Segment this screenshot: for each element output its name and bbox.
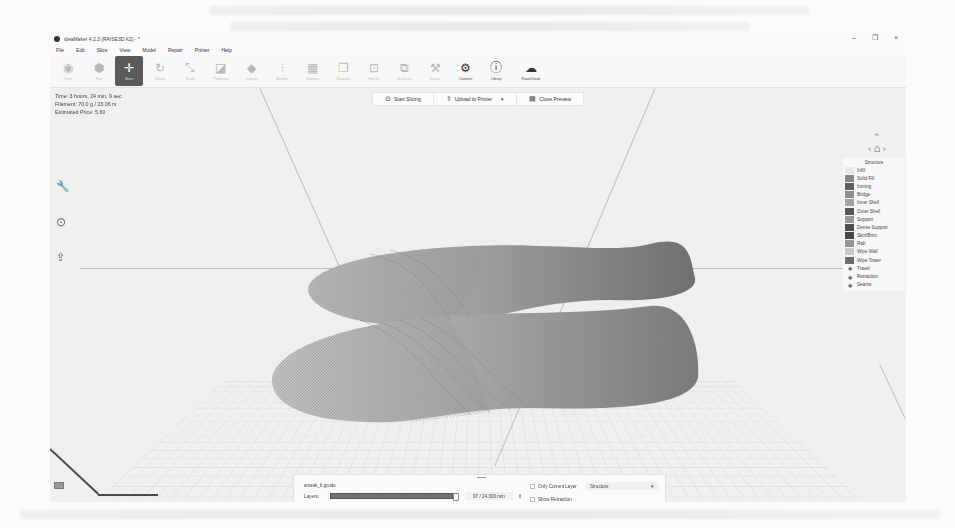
menu-repair[interactable]: Repair xyxy=(168,47,183,53)
layers-input[interactable]: 97 / 24.300 mm xyxy=(465,492,513,500)
repair-icon: ⚒ xyxy=(430,61,441,75)
view-mode-select[interactable]: Structure ▾ xyxy=(586,482,658,490)
tool-view[interactable]: ◉View xyxy=(54,56,82,86)
play-circle-icon[interactable]: ⊙ xyxy=(56,215,70,229)
home-view-icon[interactable]: ⌂ xyxy=(874,142,881,154)
print-time: Time: 3 hours, 24 min, 9 sec xyxy=(55,92,122,100)
tool-rotate[interactable]: ↻Rotate xyxy=(146,56,174,86)
3d-viewport[interactable]: Time: 3 hours, 24 min, 9 sec Filament: 7… xyxy=(50,88,906,502)
tool-shadows[interactable]: ❐Shadows xyxy=(329,56,357,86)
background-text-line xyxy=(230,22,750,31)
color-swatch xyxy=(845,240,854,247)
menu-edit[interactable]: Edit xyxy=(76,47,85,53)
color-swatch xyxy=(845,183,854,190)
eye-icon: ◉ xyxy=(845,274,854,280)
legend-item-raft[interactable]: Raft xyxy=(845,240,903,248)
eye-icon: ◉ xyxy=(845,282,854,288)
color-swatch xyxy=(845,232,854,239)
close-preview-icon: ▤ xyxy=(529,95,536,103)
legend-item-solid-fill[interactable]: Solid Fill xyxy=(845,174,903,182)
tool-raisecloud[interactable]: ☁RaiseCloud xyxy=(513,56,549,86)
view-mode-toggle-button[interactable] xyxy=(54,482,64,489)
connect-icon: ⚙ xyxy=(460,61,471,75)
estimated-price: Estimated Price: 5.60 xyxy=(55,108,122,116)
insole-models xyxy=(50,88,906,502)
color-swatch xyxy=(845,216,854,223)
color-swatch xyxy=(845,248,854,255)
tool-part[interactable]: ⬢Part xyxy=(85,56,113,86)
legend-item-seams[interactable]: ◉Seams xyxy=(845,281,903,289)
menu-file[interactable]: File xyxy=(56,47,64,53)
projection-icon: ◪ xyxy=(215,61,226,75)
tool-layouts[interactable]: ◆Layouts xyxy=(238,56,266,86)
minimize-button[interactable]: – xyxy=(852,34,856,42)
tool-scale[interactable]: ⤡Scale xyxy=(176,56,204,86)
menu-help[interactable]: Help xyxy=(221,47,231,53)
legend-item-outer-shell[interactable]: Outer Shell xyxy=(845,207,903,215)
app-window: ideaMaker 4.2.3 (RAISE3D K2) - * – ❐ × F… xyxy=(50,32,906,502)
tool-duplicate[interactable]: ⧉Duplicate xyxy=(391,56,419,86)
only-current-layer-option[interactable]: Only Current Layer xyxy=(530,484,577,489)
restore-button[interactable]: ❐ xyxy=(872,34,878,42)
tool-modifier[interactable]: ⫶Modifier xyxy=(268,56,296,86)
play-circle-icon: ⊙ xyxy=(385,95,391,103)
layers-slider[interactable] xyxy=(330,493,457,499)
legend-item-infill[interactable]: Infill xyxy=(845,166,903,174)
layers-label: Layers: xyxy=(304,494,330,499)
tool-move[interactable]: ✛Move xyxy=(115,56,143,86)
view-left-button[interactable]: ‹ xyxy=(868,144,871,154)
color-swatch xyxy=(845,257,854,264)
legend-item-inner-shell[interactable]: Inner Shell xyxy=(845,199,903,207)
show-retraction-option[interactable]: Show Retraction xyxy=(530,497,572,502)
move-icon: ✛ xyxy=(124,61,134,75)
menu-printer[interactable]: Printer xyxy=(195,47,210,53)
color-swatch xyxy=(845,191,854,198)
view-up-button[interactable]: ⌃ xyxy=(862,132,892,142)
view-right-button[interactable]: › xyxy=(883,144,886,154)
legend-item-ironing[interactable]: Ironing xyxy=(845,182,903,190)
legend-item-skirt-brim[interactable]: Skirt/Brim xyxy=(845,232,903,240)
legend-item-travel[interactable]: ◉Travel xyxy=(845,264,903,272)
eye-icon: ◉ xyxy=(845,265,854,271)
color-swatch xyxy=(845,224,854,231)
menu-view[interactable]: View xyxy=(120,47,131,53)
legend-item-dense-support[interactable]: Dense Support xyxy=(845,223,903,231)
title-bar: ideaMaker 4.2.3 (RAISE3D K2) - * – ❐ × xyxy=(50,32,906,45)
hexkit-icon: ⊡ xyxy=(369,61,379,75)
upload-dropdown-icon[interactable]: ▾ xyxy=(501,96,504,102)
background-text-line xyxy=(20,510,940,519)
tool-hexkit[interactable]: ⊡Hex Kit xyxy=(360,56,388,86)
print-estimate-info: Time: 3 hours, 24 min, 9 sec Filament: 7… xyxy=(55,92,122,116)
only-current-layer-checkbox[interactable] xyxy=(530,484,535,489)
close-preview-button[interactable]: ▤ Close Preview xyxy=(516,93,583,105)
close-button[interactable]: × xyxy=(894,34,898,42)
panel-drag-handle[interactable] xyxy=(477,477,486,478)
library-icon: ⓘ xyxy=(490,61,502,75)
layers-stepper-icon[interactable]: ⇕ xyxy=(518,493,522,499)
legend-item-wipe-tower[interactable]: Wipe Tower xyxy=(845,256,903,264)
legend-item-support[interactable]: Support xyxy=(845,215,903,223)
upload-icon[interactable]: ⇪ xyxy=(56,251,70,264)
chevron-down-icon: ▾ xyxy=(651,484,654,489)
legend-item-wipe-wall[interactable]: Wipe Wall xyxy=(845,248,903,256)
tool-textures[interactable]: ▦Textures xyxy=(299,56,327,86)
textures-icon: ▦ xyxy=(307,61,318,75)
menu-model[interactable]: Model xyxy=(142,47,156,53)
legend-item-bridge[interactable]: Bridge xyxy=(845,191,903,199)
scale-icon: ⤡ xyxy=(185,61,195,75)
tool-repair[interactable]: ⚒Repair xyxy=(421,56,449,86)
tool-library[interactable]: ⓘLibrary xyxy=(482,56,510,86)
color-swatch xyxy=(845,167,854,174)
menu-bar: File Edit Slice View Model Repair Printe… xyxy=(50,45,906,55)
menu-slice[interactable]: Slice xyxy=(97,47,108,53)
upload-to-printer-button[interactable]: ⇧ Upload to Printer ▾ xyxy=(433,93,517,105)
legend-item-retraction[interactable]: ◉Retraction xyxy=(845,272,903,280)
legend-title: Structure xyxy=(845,160,903,165)
wrench-icon[interactable]: 🔧 xyxy=(56,180,70,193)
start-slicing-button[interactable]: ⊙ Start Slicing xyxy=(373,93,433,105)
rotate-icon: ↻ xyxy=(155,61,165,75)
tool-projection[interactable]: ◪Projection xyxy=(207,56,235,86)
tool-connect[interactable]: ⚙Connect xyxy=(452,56,480,86)
color-swatch xyxy=(845,208,854,215)
show-retraction-checkbox[interactable] xyxy=(530,497,535,502)
